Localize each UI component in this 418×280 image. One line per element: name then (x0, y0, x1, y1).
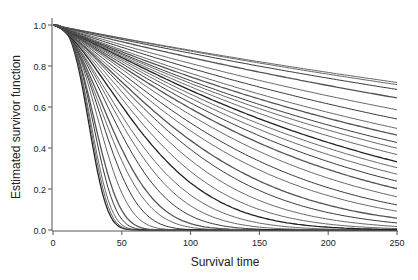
survival-curves (53, 25, 397, 230)
x-tick-label: 200 (321, 238, 336, 248)
survival-chart: 0.00.20.40.60.81.0 050100150200250 Survi… (0, 0, 418, 280)
y-ticks: 0.00.20.40.60.81.0 (33, 21, 52, 236)
y-tick-label: 1.0 (33, 21, 46, 31)
y-tick-label: 0.2 (33, 185, 46, 195)
x-tick-label: 250 (389, 238, 404, 248)
y-tick-label: 0.4 (33, 144, 46, 154)
y-tick-label: 0.6 (33, 103, 46, 113)
x-tick-label: 100 (183, 238, 198, 248)
y-tick-label: 0.0 (33, 226, 46, 236)
x-tick-label: 150 (252, 238, 267, 248)
y-axis-label: Estimated survivor function (9, 55, 23, 199)
y-tick-label: 0.8 (33, 62, 46, 72)
x-ticks: 050100150200250 (50, 231, 404, 248)
x-axis-label: Survival time (191, 255, 260, 269)
x-tick-label: 50 (117, 238, 127, 248)
survival-curve (53, 25, 397, 83)
x-tick-label: 0 (50, 238, 55, 248)
